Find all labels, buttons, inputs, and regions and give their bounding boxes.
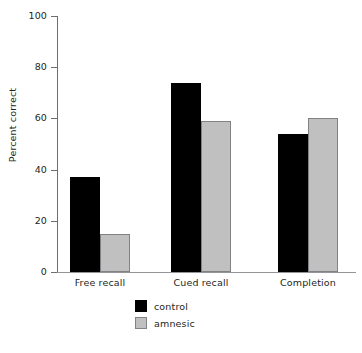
- bar-control-free-recall: [70, 177, 100, 272]
- y-axis-tick-mark: [51, 170, 57, 171]
- legend-item-label: control: [154, 301, 188, 312]
- bar-chart-figure: Percent correct 020406080100 Free recall…: [0, 0, 362, 353]
- bar-group: [70, 16, 130, 272]
- bar-amnesic-free-recall: [100, 234, 130, 272]
- y-axis-tick-label-text: 60: [0, 113, 47, 123]
- black-square-swatch: [135, 300, 147, 312]
- bar-group: [278, 16, 338, 272]
- bar-control-completion: [278, 134, 308, 272]
- y-axis-tick-label-text: 0: [0, 267, 47, 277]
- y-axis-tick-label: 60: [0, 113, 47, 123]
- y-axis-tick-label-text: 100: [0, 11, 47, 21]
- y-axis-tick-label-text: 80: [0, 62, 47, 72]
- plot-area: [58, 16, 355, 272]
- x-axis-line: [57, 272, 356, 273]
- y-axis-tick-label-text: 40: [0, 165, 47, 175]
- bar-amnesic-cued-recall: [201, 121, 231, 272]
- bar-control-cued-recall: [171, 83, 201, 272]
- chart-legend: controlamnesic: [0, 300, 362, 329]
- legend-item-label: amnesic: [154, 318, 195, 329]
- bar-group: [171, 16, 231, 272]
- x-axis-label-completion: Completion: [248, 277, 362, 288]
- y-axis-tick-mark: [51, 118, 57, 119]
- y-axis-tick-label: 20: [0, 216, 47, 226]
- y-axis-tick-label: 100: [0, 11, 47, 21]
- bar-amnesic-completion: [308, 118, 338, 272]
- y-axis-tick-label: 80: [0, 62, 47, 72]
- x-axis-label-cued-recall: Cued recall: [141, 277, 261, 288]
- y-axis-tick-mark: [51, 272, 57, 273]
- legend-item-amnesic: amnesic: [135, 317, 227, 329]
- y-axis-tick-label: 0: [0, 267, 47, 277]
- y-axis-tick-mark: [51, 16, 57, 17]
- y-axis-tick-mark: [51, 221, 57, 222]
- y-axis-tick-label: 40: [0, 165, 47, 175]
- y-axis-tick-label-text: 20: [0, 216, 47, 226]
- legend-item-control: control: [135, 300, 227, 312]
- y-axis-tick-mark: [51, 67, 57, 68]
- gray-square-swatch: [135, 317, 147, 329]
